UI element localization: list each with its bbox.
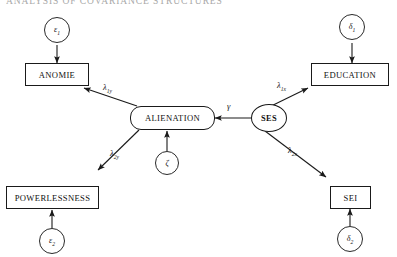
- disturbance-circle-delta2: δ2: [337, 226, 363, 252]
- path-label-lambda1x: λ1x: [277, 80, 286, 92]
- observed-node-powerlessness: POWERLESSNESS: [6, 186, 99, 209]
- observed-node-sei: SEI: [330, 186, 371, 209]
- disturbance-circle-eps1: ε1: [44, 17, 70, 43]
- disturbance-label-delta2: δ2: [347, 234, 354, 245]
- latent-node-alienation: ALIENATION: [130, 106, 215, 130]
- disturbance-circle-eps2: ε2: [39, 228, 65, 254]
- observed-label-anomie: ANOMIE: [39, 70, 75, 80]
- disturbance-circle-delta1: δ1: [339, 14, 365, 40]
- disturbance-label-eps1: ε1: [54, 25, 60, 36]
- path-label-gamma: γ: [227, 101, 230, 111]
- disturbance-label-zeta: ζ: [165, 159, 168, 168]
- path-label-lambda2x: λ2x: [288, 145, 297, 157]
- observed-label-education: EDUCATION: [324, 70, 376, 80]
- disturbance-label-eps2: ε2: [49, 236, 55, 247]
- diagram-page: ANALYSIS OF COVARIANCE STRUCTURES ε1: [0, 0, 397, 257]
- observed-node-anomie: ANOMIE: [25, 63, 89, 86]
- latent-node-ses: SES: [251, 104, 287, 132]
- latent-label-ses: SES: [261, 114, 277, 123]
- disturbance-label-delta1: δ1: [349, 22, 356, 33]
- path-label-lambda1y: λ1y: [103, 82, 112, 94]
- observed-label-powerlessness: POWERLESSNESS: [15, 193, 91, 203]
- disturbance-circle-zeta: ζ: [155, 151, 179, 175]
- path-label-lambda2y: λ2y: [110, 148, 119, 160]
- latent-label-alienation: ALIENATION: [145, 113, 200, 123]
- observed-node-education: EDUCATION: [311, 63, 389, 86]
- observed-label-sei: SEI: [344, 193, 358, 203]
